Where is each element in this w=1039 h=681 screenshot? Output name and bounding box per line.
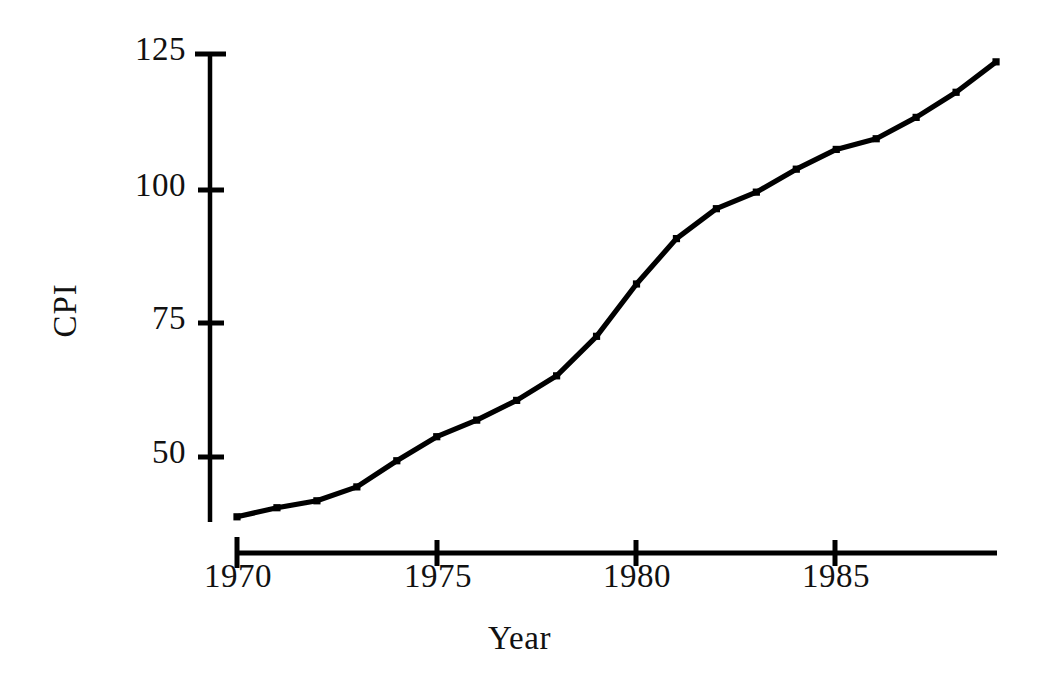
x-tick-label-1975: 1975 — [404, 560, 472, 593]
data-point-marker — [633, 280, 640, 287]
y-axis-title: CPI — [47, 292, 84, 338]
x-tick-label-1970: 1970 — [204, 560, 272, 593]
data-point-marker — [673, 235, 680, 242]
data-point-marker — [353, 483, 360, 490]
cpi-line — [237, 62, 996, 517]
data-point-marker — [233, 513, 240, 520]
data-point-marker — [473, 417, 480, 424]
data-point-marker — [273, 504, 280, 511]
data-point-marker — [953, 89, 960, 96]
data-point-marker — [992, 58, 999, 65]
y-tick-label-100: 100 — [135, 169, 186, 202]
data-point-marker — [793, 166, 800, 173]
data-point-marker — [593, 333, 600, 340]
data-point-marker — [433, 433, 440, 440]
x-tick-label-1980: 1980 — [603, 560, 671, 593]
data-point-marker — [553, 372, 560, 379]
cpi-line-chart: 125 100 75 50 1970 1975 1980 1985 CPI Ye… — [0, 0, 1039, 681]
data-point-marker — [753, 189, 760, 196]
data-point-marker — [913, 114, 920, 121]
x-tick-label-1985: 1985 — [802, 560, 870, 593]
data-point-marker — [873, 135, 880, 142]
data-point-marker — [393, 457, 400, 464]
data-point-marker — [713, 205, 720, 212]
y-tick-label-125: 125 — [135, 33, 186, 66]
chart-plot-area — [0, 0, 1039, 681]
y-tick-label-75: 75 — [152, 302, 186, 335]
data-point-marker — [513, 397, 520, 404]
data-point-marker — [833, 146, 840, 153]
y-tick-label-50: 50 — [152, 436, 186, 469]
data-point-marker — [313, 497, 320, 504]
data-series-cpi — [233, 58, 999, 520]
x-axis-title: Year — [0, 620, 1039, 657]
